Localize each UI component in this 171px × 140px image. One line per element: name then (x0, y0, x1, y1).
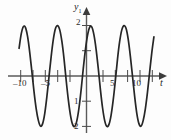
x-tick-label-10: 10 (132, 79, 141, 88)
x-tick-label-5: 5 (110, 79, 115, 88)
y-axis-label: y1 (74, 2, 81, 14)
y-tick-label-neg1: 1 (74, 97, 79, 106)
y-tick-label-neg2: 2 (74, 122, 79, 131)
y-axis-arrow-icon (83, 7, 91, 15)
x-tick-label-neg5: –5 (41, 79, 50, 88)
y-tick-label-2: 2 (76, 18, 81, 27)
plot-canvas (0, 0, 171, 140)
sinusoid-figure: –-1010 –5 5 10 2 1 2 y1 t (0, 0, 171, 140)
x-tick-label-neg10: –-1010 (13, 79, 27, 88)
x-axis-label: t (160, 78, 163, 88)
